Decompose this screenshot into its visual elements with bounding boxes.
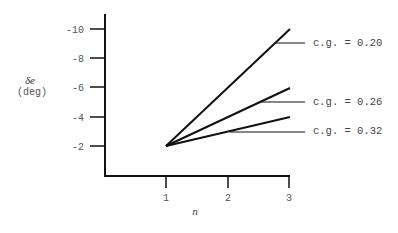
- y-axis-label: δe: [25, 74, 35, 86]
- y-tick-label: -10: [66, 25, 84, 36]
- y-tick-label: -8: [72, 54, 84, 65]
- legend-label-cg-020: c.g. = 0.20: [313, 37, 382, 49]
- legend-label-cg-026: c.g. = 0.26: [313, 96, 382, 108]
- x-tick-label: 1: [163, 193, 169, 204]
- y-axis-unit: (deg): [17, 87, 47, 98]
- legend-label-cg-032: c.g. = 0.32: [313, 125, 382, 137]
- chart: -10 -8 -6 -4 -2 1 2 3 δe (deg) n c.g. = …: [0, 0, 398, 233]
- x-tick-label: 2: [225, 193, 231, 204]
- y-tick-label: -4: [72, 113, 84, 124]
- x-tick-label: 3: [286, 193, 292, 204]
- x-axis-label: n: [192, 205, 198, 217]
- series-line-cg-026: [166, 88, 290, 146]
- y-ticks: [90, 29, 105, 146]
- series-line-cg-020: [166, 29, 290, 146]
- leader-lines: [230, 43, 305, 132]
- y-tick-label: -2: [72, 142, 84, 153]
- y-tick-label: -6: [72, 83, 84, 94]
- x-ticks: [166, 176, 289, 188]
